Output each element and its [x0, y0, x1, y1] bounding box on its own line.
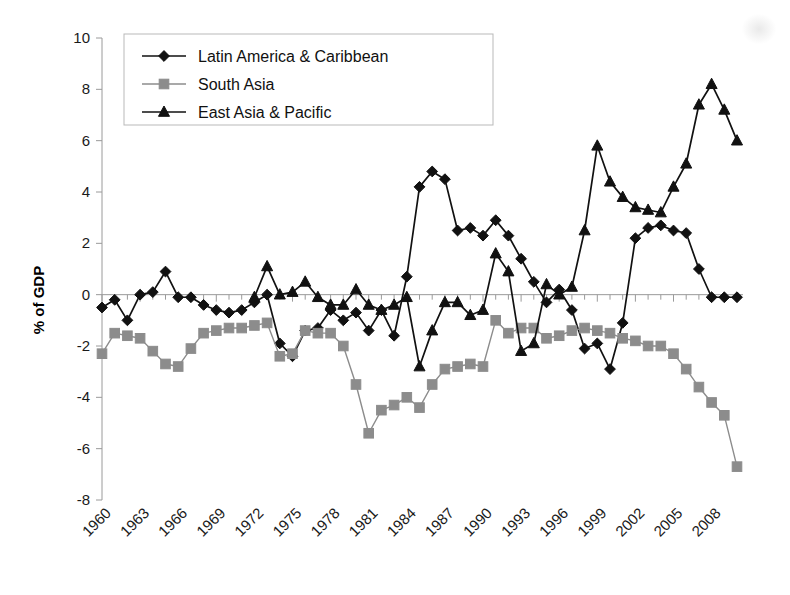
x-axis-tick-label: 1993	[498, 504, 534, 540]
data-point-marker	[236, 305, 247, 316]
data-point-marker	[630, 201, 641, 211]
data-point-marker	[452, 225, 463, 236]
data-point-marker	[605, 328, 615, 338]
data-point-marker	[504, 328, 514, 338]
data-point-marker	[491, 316, 501, 326]
data-point-marker	[694, 264, 705, 275]
data-point-marker	[707, 398, 717, 408]
x-axis-tick-label: 1969	[193, 504, 229, 540]
data-point-marker	[580, 323, 590, 333]
data-point-marker	[288, 349, 298, 359]
data-point-marker	[579, 225, 590, 235]
legend-item-label: Latin America & Caribbean	[198, 48, 388, 65]
y-axis-tick-label: 10	[73, 29, 90, 46]
y-axis-title: % of GDP	[30, 266, 47, 334]
series-line	[102, 171, 737, 369]
series-line	[102, 320, 737, 466]
data-point-marker	[477, 304, 488, 314]
data-point-marker	[617, 318, 628, 329]
x-axis-tick-label: 1981	[345, 504, 381, 540]
x-axis-tick-label: 1966	[155, 504, 191, 540]
data-point-marker	[377, 405, 387, 415]
data-point-marker	[655, 220, 666, 231]
legend: Latin America & CaribbeanSouth AsiaEast …	[124, 34, 493, 125]
data-point-marker	[618, 334, 628, 344]
data-point-marker	[326, 328, 336, 338]
data-point-marker	[453, 362, 463, 372]
chart-container: 1086420-2-4-6-81960196319661969197219751…	[0, 0, 790, 595]
data-point-marker	[605, 364, 616, 375]
data-point-marker	[351, 380, 361, 390]
data-point-marker	[631, 336, 641, 346]
data-point-marker	[542, 334, 552, 344]
data-point-marker	[401, 271, 412, 282]
data-point-marker	[440, 174, 451, 185]
data-point-marker	[262, 260, 273, 270]
data-point-marker	[147, 287, 158, 298]
data-point-marker	[159, 79, 169, 89]
y-axis-tick-label: -4	[77, 388, 90, 405]
data-point-marker	[732, 292, 743, 303]
data-point-marker	[135, 334, 145, 344]
data-point-marker	[669, 349, 679, 359]
data-point-marker	[212, 326, 222, 336]
data-point-marker	[706, 292, 717, 303]
y-axis-tick-label: 0	[82, 286, 90, 303]
y-axis-tick-label: 2	[82, 234, 90, 251]
data-point-marker	[490, 248, 501, 258]
data-point-marker	[567, 326, 577, 336]
x-axis-tick-label: 1999	[574, 504, 610, 540]
data-point-marker	[720, 411, 730, 421]
data-point-marker	[351, 307, 362, 318]
data-point-marker	[592, 338, 603, 349]
data-point-marker	[250, 321, 260, 331]
data-point-marker	[135, 289, 146, 300]
x-axis-tick-label: 2005	[650, 504, 686, 540]
data-point-marker	[554, 331, 564, 341]
data-point-marker	[237, 323, 247, 333]
data-point-marker	[275, 351, 285, 361]
data-point-marker	[604, 176, 615, 186]
data-point-marker	[693, 99, 704, 109]
data-point-marker	[350, 284, 361, 294]
data-point-marker	[478, 362, 488, 372]
y-axis-tick-label: -2	[77, 337, 90, 354]
x-axis-tick-label: 1963	[117, 504, 153, 540]
data-point-marker	[97, 349, 107, 359]
x-axis-tick-label: 1987	[421, 504, 457, 540]
x-axis-tick-label: 2002	[612, 504, 648, 540]
data-point-marker	[731, 135, 742, 145]
data-point-marker	[249, 291, 260, 301]
data-point-marker	[427, 325, 438, 335]
data-point-marker	[389, 400, 399, 410]
data-point-marker	[123, 331, 133, 341]
data-point-marker	[211, 305, 222, 316]
data-point-marker	[313, 328, 323, 338]
data-point-marker	[287, 286, 298, 296]
data-point-marker	[415, 403, 425, 413]
data-point-marker	[541, 278, 552, 288]
y-axis-tick-label: 6	[82, 132, 90, 149]
data-point-marker	[173, 292, 184, 303]
x-axis-tick-label: 2008	[688, 504, 724, 540]
data-point-marker	[681, 228, 692, 239]
data-point-marker	[516, 345, 527, 355]
x-axis-tick-label: 1960	[79, 504, 115, 540]
data-point-marker	[300, 276, 311, 286]
y-axis-tick-label: -8	[77, 491, 90, 508]
data-point-marker	[186, 292, 197, 303]
data-point-marker	[656, 341, 666, 351]
legend-item-label: South Asia	[198, 76, 275, 93]
x-axis-tick-label: 1975	[269, 504, 305, 540]
y-axis-tick-label: -6	[77, 440, 90, 457]
x-axis-tick-label: 1978	[307, 504, 343, 540]
data-point-marker	[161, 359, 171, 369]
series-2	[97, 316, 742, 472]
data-point-marker	[719, 104, 730, 114]
data-point-marker	[465, 223, 476, 234]
data-point-marker	[186, 344, 196, 354]
y-axis-tick-label: 8	[82, 80, 90, 97]
data-point-marker	[706, 78, 717, 88]
x-axis-tick-label: 1984	[383, 504, 419, 540]
data-point-marker	[668, 181, 679, 191]
